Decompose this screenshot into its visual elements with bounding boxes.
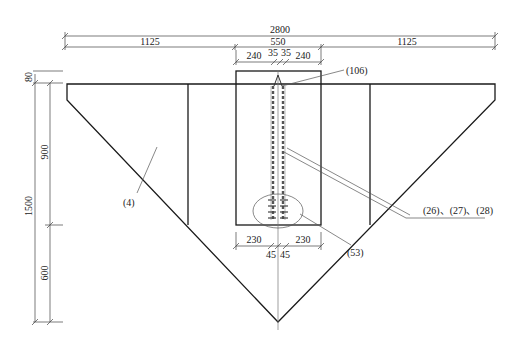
label-top-part: (106) [346, 65, 368, 77]
dim-overall-width: 2800 [270, 24, 290, 35]
dim-bottom-sub-2: 45 [266, 249, 276, 260]
dim-bottom-sub-3: 45 [280, 249, 290, 260]
dim-top-offset: 80 [23, 72, 34, 82]
dim-overall-height: 1500 [23, 196, 34, 216]
dim-right-width: 1125 [397, 36, 417, 47]
dim-sub-3: 35 [281, 47, 291, 58]
bottom-dimension-chain: 230 45 45 230 [233, 232, 324, 260]
dim-sub-4: 240 [296, 50, 311, 61]
dim-bottom-sub-4: 230 [296, 234, 311, 245]
left-dimension-chain: 80 1500 900 600 [23, 71, 63, 325]
dim-sub-2: 35 [268, 47, 278, 58]
label-anchors: (53) [347, 247, 364, 259]
dim-sub-1: 240 [247, 50, 262, 61]
label-tendons: (26)、(27)、(28) [423, 205, 493, 217]
dim-upper-height: 900 [39, 145, 50, 160]
anchorage-block-drawing: 2800 1125 550 1125 240 35 35 240 [0, 0, 517, 345]
dim-lower-height: 600 [39, 266, 50, 281]
dim-center-width: 550 [271, 36, 286, 47]
dim-left-width: 1125 [140, 36, 160, 47]
top-dimension-chain: 2800 1125 550 1125 240 35 35 240 [62, 24, 498, 65]
label-plate: (4) [123, 197, 135, 209]
dim-bottom-sub-1: 230 [247, 234, 262, 245]
callouts: (4) (106) (26)、(27)、(28) (53) [123, 65, 493, 259]
